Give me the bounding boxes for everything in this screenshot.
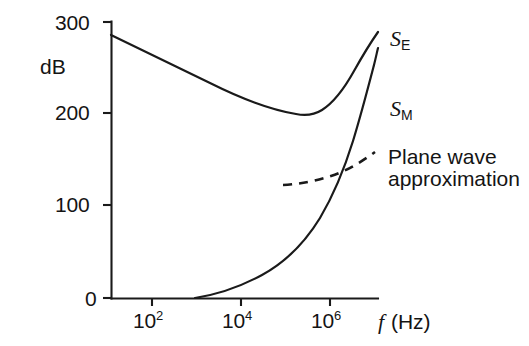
annotation-line-1: Plane wave xyxy=(388,146,520,168)
figure-root: dB 300 200 100 0 102 104 106 f (Hz) SE S… xyxy=(0,0,529,346)
y-tick-label-0: 0 xyxy=(85,288,96,309)
y-tick-label-100: 100 xyxy=(55,194,89,215)
series-subscript: M xyxy=(401,107,413,123)
y-axis-title: dB xyxy=(40,56,66,77)
y-tick-label-200: 200 xyxy=(55,102,89,123)
x-tick-mantissa: 10 xyxy=(133,309,156,332)
x-tick-exponent: 6 xyxy=(334,308,341,323)
x-tick-label-1e6: 106 xyxy=(311,310,341,331)
curve-magnetic-shielding xyxy=(195,48,378,298)
series-label-magnetic: SM xyxy=(390,98,413,120)
x-tick-mantissa: 10 xyxy=(311,309,334,332)
series-label-electric: SE xyxy=(390,28,410,50)
x-tick-mantissa: 10 xyxy=(222,309,245,332)
x-tick-exponent: 2 xyxy=(156,308,163,323)
x-tick-exponent: 4 xyxy=(245,308,252,323)
annotation-line-2: approximation xyxy=(388,168,520,190)
x-tick-label-1e2: 102 xyxy=(133,310,163,331)
x-axis-title: f (Hz) xyxy=(378,311,431,333)
series-symbol: S xyxy=(390,26,401,51)
series-subscript: E xyxy=(401,37,410,53)
y-tick-label-300: 300 xyxy=(55,12,89,33)
curve-electric-shielding xyxy=(111,32,378,115)
x-tick-label-1e4: 104 xyxy=(222,310,252,331)
curve-plane-wave-approximation xyxy=(283,152,375,185)
x-axis-unit: (Hz) xyxy=(385,310,431,333)
annotation-plane-wave-approximation: Plane wave approximation xyxy=(388,146,520,190)
series-symbol: S xyxy=(390,96,401,121)
